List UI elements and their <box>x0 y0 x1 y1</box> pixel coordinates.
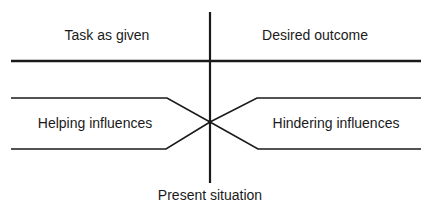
hindering-influences-label: Hindering influences <box>273 116 400 130</box>
crossing-point <box>208 120 212 124</box>
helping-influences-label: Helping influences <box>38 116 152 130</box>
task-as-given-label: Task as given <box>65 28 150 42</box>
desired-outcome-label: Desired outcome <box>262 28 368 42</box>
force-field-diagram: Task as given Desired outcome Helping in… <box>0 0 431 208</box>
present-situation-label: Present situation <box>158 188 262 202</box>
